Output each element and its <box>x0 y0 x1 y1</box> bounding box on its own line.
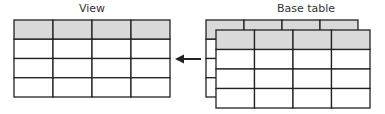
base-front-cell <box>255 69 294 89</box>
view-cell <box>14 39 53 58</box>
view-cell <box>92 59 131 78</box>
view-cell <box>53 39 92 58</box>
view-cell <box>131 39 170 58</box>
base-front-header-cell <box>293 30 332 50</box>
view-cell <box>14 59 53 78</box>
view-cell <box>92 39 131 58</box>
base-front-cell <box>332 89 371 109</box>
base-front-cell <box>332 69 371 89</box>
base-front-cell <box>216 69 255 89</box>
base-front-cell <box>255 50 294 70</box>
view-cell <box>131 59 170 78</box>
base-front-cell <box>293 89 332 109</box>
view-cell <box>14 78 53 97</box>
base-front-header-cell <box>332 30 371 50</box>
base-front-cell <box>293 69 332 89</box>
base-front-cell <box>216 89 255 109</box>
base-front-cell <box>293 50 332 70</box>
base-front-cell <box>332 50 371 70</box>
view-cell <box>92 78 131 97</box>
base-front-cell <box>216 50 255 70</box>
view-cell <box>131 78 170 97</box>
view-table <box>14 20 170 97</box>
base-front-header-cell <box>255 30 294 50</box>
arrow-left-icon <box>175 55 201 64</box>
view-cell <box>53 78 92 97</box>
view-cell <box>53 59 92 78</box>
view-header-cell <box>92 20 131 39</box>
base-table-front-layer <box>216 30 370 108</box>
diagram-canvas <box>0 0 385 114</box>
view-header-cell <box>14 20 53 39</box>
view-header-cell <box>53 20 92 39</box>
base-front-header-cell <box>216 30 255 50</box>
base-front-cell <box>255 89 294 109</box>
view-header-cell <box>131 20 170 39</box>
